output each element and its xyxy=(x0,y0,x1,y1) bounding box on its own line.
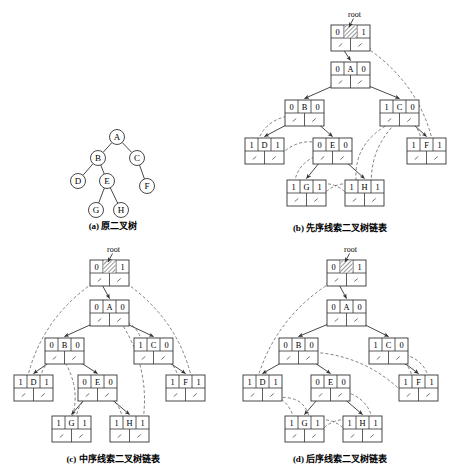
rtag-value: 0 xyxy=(361,65,365,74)
tree-edge-A-B xyxy=(103,143,112,153)
postorder-threaded-diagram: 010A00B01C01D10E01F11G11H1root xyxy=(227,240,453,476)
node-data-value: C xyxy=(151,341,157,350)
list-node-G: 1G1 xyxy=(285,416,324,442)
rtag-value: 1 xyxy=(120,263,124,272)
tree-node-B: B xyxy=(91,151,106,166)
ltag-value: 1 xyxy=(249,141,253,150)
root-label: root xyxy=(107,245,121,254)
rtag-value: 1 xyxy=(357,263,361,272)
node-data-value: F xyxy=(183,378,188,387)
rtag-value: 1 xyxy=(315,419,319,428)
list-node-C: 1C0 xyxy=(369,338,408,364)
original-binary-tree-diagram: ABCDEFGH xyxy=(0,0,226,240)
rtag-value: 1 xyxy=(196,378,200,387)
list-node-A: 0A0 xyxy=(90,300,129,326)
caption-d: (d) 后序线索二叉树链表 xyxy=(227,452,453,465)
ltag-value: 1 xyxy=(247,378,251,387)
ltag-value: 1 xyxy=(347,419,351,428)
list-node-E: 0E0 xyxy=(78,375,117,401)
node-data-value: C xyxy=(386,341,392,350)
rtag-value: 0 xyxy=(399,341,403,350)
rtag-value: 1 xyxy=(429,378,433,387)
list-node-D: 1D1 xyxy=(245,138,284,164)
ltag-value: 0 xyxy=(315,378,319,387)
ltag-value: 1 xyxy=(170,378,174,387)
rtag-value: 0 xyxy=(108,378,112,387)
node-data-value: E xyxy=(95,378,100,387)
node-data-value: G xyxy=(303,183,309,192)
list-node-E: 0E0 xyxy=(313,138,352,164)
rtag-value: 0 xyxy=(357,303,361,312)
ltag-value: 1 xyxy=(114,419,118,428)
root-label: root xyxy=(348,10,362,19)
tree-node-D: D xyxy=(71,174,86,189)
head-node-hatch xyxy=(345,26,357,38)
list-node-H: 1H1 xyxy=(110,416,149,442)
tree-edge-A-C xyxy=(122,142,132,152)
node-data-value: G xyxy=(301,419,307,428)
node-label: E xyxy=(104,176,110,186)
ltag-value: 0 xyxy=(331,263,335,272)
list-node-D: 1D1 xyxy=(243,375,282,401)
list-node-C: 1C0 xyxy=(380,100,419,126)
rtag-value: 1 xyxy=(82,419,86,428)
head-node-hatch xyxy=(341,261,353,273)
list-node-C: 1C0 xyxy=(134,338,173,364)
rtag-value: 0 xyxy=(75,341,79,350)
rtag-value: 0 xyxy=(309,341,313,350)
node-label: G xyxy=(93,205,100,215)
node-data-value: H xyxy=(126,419,132,428)
ltag-value: 0 xyxy=(94,303,98,312)
rtag-value: 0 xyxy=(164,341,168,350)
ltag-value: 0 xyxy=(335,28,339,37)
panel-inorder-threaded-list: 010A00B01C01D10E01F11G11H1root xyxy=(0,240,226,476)
list-node-head: 01 xyxy=(327,260,366,286)
node-label: D xyxy=(75,176,82,186)
panel-postorder-threaded-list: 010A00B01C01D10E01F11G11H1root xyxy=(227,240,453,476)
ltag-value: 1 xyxy=(138,341,142,350)
list-node-A: 0A0 xyxy=(327,300,366,326)
node-data-value: B xyxy=(296,341,302,350)
node-data-value: F xyxy=(416,378,421,387)
rtag-value: 1 xyxy=(275,141,279,150)
node-data-value: A xyxy=(343,303,349,312)
rtag-value: 0 xyxy=(410,103,414,112)
root-label: root xyxy=(344,245,358,254)
tree-edge-E-H xyxy=(110,188,117,203)
rtag-value: 0 xyxy=(120,303,124,312)
ltag-value: 0 xyxy=(289,103,293,112)
rtag-value: 1 xyxy=(375,183,379,192)
node-data-value: E xyxy=(328,378,333,387)
panel-preorder-threaded-list: 010A00B01C01D10E01F11G11H1root (b) 先序线索二… xyxy=(227,0,453,240)
list-node-F: 1F1 xyxy=(399,375,438,401)
node-data-value: G xyxy=(68,419,74,428)
node-data-value: D xyxy=(261,141,267,150)
tree-node-E: E xyxy=(100,174,115,189)
ltag-value: 0 xyxy=(283,341,287,350)
caption-a: (a) 原二叉树 xyxy=(0,219,226,232)
node-data-value: B xyxy=(62,341,68,350)
tree-node-G: G xyxy=(89,203,104,218)
list-node-B: 0B0 xyxy=(279,338,318,364)
rtag-value: 1 xyxy=(140,419,144,428)
node-data-value: H xyxy=(359,419,365,428)
tree-edge-B-D xyxy=(83,164,93,176)
panel-original-binary-tree: ABCDEFGH (a) 原二叉树 xyxy=(0,0,226,240)
ltag-value: 1 xyxy=(18,378,22,387)
list-node-E: 0E0 xyxy=(311,375,350,401)
inorder-threaded-diagram: 010A00B01C01D10E01F11G11H1root xyxy=(0,240,226,476)
list-node-G: 1G1 xyxy=(52,416,91,442)
list-node-A: 0A0 xyxy=(331,62,370,88)
node-data-value: A xyxy=(106,303,112,312)
ltag-value: 1 xyxy=(291,183,295,192)
caption-b: (b) 先序线索二叉树链表 xyxy=(227,221,453,234)
tree-edge-E-G xyxy=(99,188,105,203)
ltag-value: 1 xyxy=(349,183,353,192)
node-data-value: D xyxy=(259,378,265,387)
preorder-threaded-diagram: 010A00B01C01D10E01F11G11H1root xyxy=(227,0,453,240)
list-node-head: 01 xyxy=(90,260,129,286)
rtag-value: 1 xyxy=(373,419,377,428)
rtag-value: 1 xyxy=(273,378,277,387)
ltag-value: 0 xyxy=(94,263,98,272)
list-node-head: 01 xyxy=(331,25,370,51)
